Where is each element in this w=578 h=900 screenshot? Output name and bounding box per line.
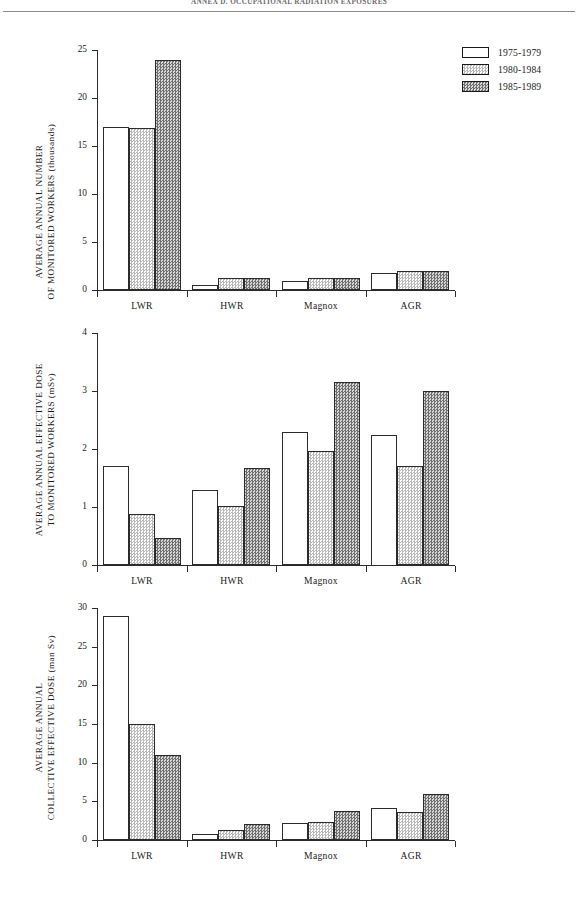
x-axis-category-label-magnox: Magnox [276,301,366,311]
y-axis-tick-label: 20 [61,93,87,102]
y-axis-tick [92,724,97,725]
y-axis-tick [92,50,97,51]
y-axis-tick [92,507,97,508]
bar-effective-dose-hwr-1985-1989 [244,468,270,565]
y-axis-tick [92,763,97,764]
chart-panel-collective-dose: 051015202530LWRHWRMagnoxAGRAVERAGE ANNUA… [0,600,578,880]
y-axis-tick-label: 0 [61,560,87,569]
x-axis-category-label-hwr: HWR [187,576,277,586]
y-axis-tick-label: 30 [61,603,87,612]
y-axis-tick [92,449,97,450]
x-axis-category-label-agr: AGR [366,851,456,861]
y-axis-tick-label: 4 [61,328,87,337]
x-axis-tick [187,291,188,297]
x-axis-tick [97,291,98,297]
y-axis-tick [92,194,97,195]
x-axis-category-label-magnox: Magnox [276,576,366,586]
x-axis-tick [97,841,98,847]
y-axis-tick [92,98,97,99]
y-axis-tick [92,391,97,392]
bar-monitored-workers-lwr-1980-1984 [129,128,155,290]
bar-monitored-workers-magnox-1985-1989 [334,278,360,290]
y-axis-tick [92,242,97,243]
x-axis-tick [366,291,367,297]
x-axis-category-label-agr: AGR [366,301,456,311]
bar-collective-dose-hwr-1980-1984 [218,830,244,840]
bar-monitored-workers-agr-1985-1989 [423,271,449,290]
bar-monitored-workers-hwr-1980-1984 [218,278,244,290]
y-axis-tick-label: 5 [61,237,87,246]
y-axis-tick [92,647,97,648]
bar-monitored-workers-agr-1980-1984 [397,271,423,290]
bar-monitored-workers-magnox-1975-1979 [282,281,308,290]
y-axis-line [97,608,98,840]
x-axis-tick [366,566,367,572]
y-axis-tick [92,801,97,802]
page-running-head: ANNEX D. OCCUPATIONAL RADIATION EXPOSURE… [0,0,578,14]
x-axis-category-label-hwr: HWR [187,851,277,861]
x-axis-category-label-lwr: LWR [97,301,187,311]
bar-effective-dose-magnox-1985-1989 [334,382,360,565]
y-axis-tick-label: 15 [61,141,87,150]
x-axis-tick [455,841,456,847]
y-axis-line [97,50,98,290]
bar-effective-dose-lwr-1975-1979 [103,466,129,565]
y-axis-line [97,333,98,565]
x-axis-category-label-magnox: Magnox [276,851,366,861]
bar-collective-dose-magnox-1985-1989 [334,811,360,840]
y-axis-tick-label: 0 [61,285,87,294]
x-axis-category-label-lwr: LWR [97,851,187,861]
bar-collective-dose-lwr-1980-1984 [129,724,155,840]
bar-monitored-workers-lwr-1985-1989 [155,60,181,290]
bar-collective-dose-agr-1975-1979 [371,808,397,840]
bar-effective-dose-lwr-1985-1989 [155,538,181,565]
y-axis-tick-label: 15 [61,719,87,728]
x-axis-category-label-hwr: HWR [187,301,277,311]
y-axis-title: AVERAGE ANNUAL EFFECTIVE DOSE TO MONITOR… [34,304,57,596]
y-axis-tick-label: 2 [61,444,87,453]
x-axis-tick [187,566,188,572]
bar-collective-dose-hwr-1985-1989 [244,824,270,840]
bar-collective-dose-lwr-1985-1989 [155,755,181,840]
bar-monitored-workers-hwr-1985-1989 [244,278,270,290]
y-axis-tick [92,685,97,686]
bar-effective-dose-hwr-1980-1984 [218,506,244,565]
y-axis-tick-label: 10 [61,189,87,198]
bar-monitored-workers-magnox-1980-1984 [308,278,334,290]
bar-collective-dose-magnox-1975-1979 [282,823,308,840]
header-rule [3,11,575,12]
bar-effective-dose-hwr-1975-1979 [192,490,218,565]
x-axis-tick [187,841,188,847]
y-axis-tick-label: 0 [61,835,87,844]
y-axis-tick-label: 25 [61,45,87,54]
x-axis-tick [276,841,277,847]
x-axis-category-label-lwr: LWR [97,576,187,586]
x-axis-tick [455,566,456,572]
x-axis-category-label-agr: AGR [366,576,456,586]
y-axis-tick [92,333,97,334]
bar-collective-dose-agr-1985-1989 [423,794,449,840]
running-head-text: ANNEX D. OCCUPATIONAL RADIATION EXPOSURE… [0,0,578,7]
bar-collective-dose-hwr-1975-1979 [192,834,218,840]
chart-panel-effective-dose: 01234LWRHWRMagnoxAGRAVERAGE ANNUAL EFFEC… [0,325,578,605]
bar-effective-dose-agr-1980-1984 [397,466,423,565]
bar-effective-dose-magnox-1980-1984 [308,451,334,565]
x-axis-tick [366,841,367,847]
x-axis-tick [276,291,277,297]
x-axis-tick [97,566,98,572]
y-axis-tick-label: 10 [61,758,87,767]
bar-monitored-workers-agr-1975-1979 [371,273,397,290]
y-axis-tick-label: 20 [61,680,87,689]
bar-effective-dose-lwr-1980-1984 [129,514,155,565]
y-axis-tick-label: 5 [61,796,87,805]
chart-panel-monitored-workers: 0510152025LWRHWRMagnoxAGRAVERAGE ANNUAL … [0,40,578,330]
bar-monitored-workers-hwr-1975-1979 [192,285,218,290]
y-axis-tick [92,608,97,609]
y-axis-tick-label: 3 [61,386,87,395]
y-axis-title: AVERAGE ANNUAL COLLECTIVE EFFECTIVE DOSE… [34,582,57,874]
x-axis-tick [455,291,456,297]
bar-effective-dose-agr-1985-1989 [423,391,449,565]
bar-effective-dose-magnox-1975-1979 [282,432,308,565]
bar-effective-dose-agr-1975-1979 [371,435,397,566]
y-axis-tick-label: 1 [61,502,87,511]
